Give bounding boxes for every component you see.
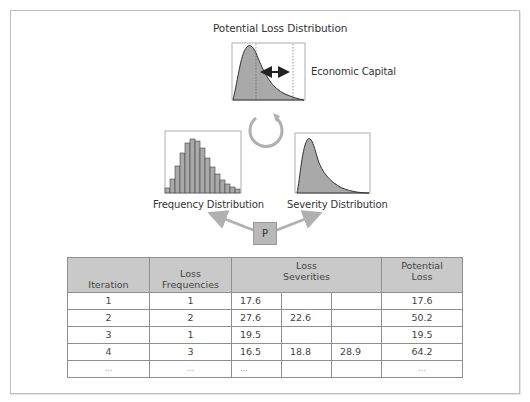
severity-distribution-label: Severity Distribution bbox=[287, 199, 388, 210]
cell-frequency: 3 bbox=[150, 344, 232, 361]
cell-severity-1: 17.6 bbox=[232, 293, 282, 310]
cycle-arrow-icon bbox=[250, 113, 282, 146]
potential-loss-title: Potential Loss Distribution bbox=[213, 22, 347, 34]
frequency-histogram bbox=[165, 131, 241, 193]
severity-chart bbox=[295, 133, 370, 193]
cell-iteration: 1 bbox=[68, 293, 150, 310]
header-potential-loss: PotentialLoss bbox=[382, 258, 463, 293]
cell-severity-2 bbox=[282, 293, 332, 310]
table-row: 2 2 27.6 22.6 50.2 bbox=[68, 310, 463, 327]
cell-severity-3 bbox=[332, 361, 382, 378]
arrow-to-severity bbox=[277, 214, 318, 230]
table-row: 3 1 19.5 19.5 bbox=[68, 327, 463, 344]
cell-frequency: ... bbox=[150, 361, 232, 378]
process-box: P bbox=[253, 222, 277, 245]
arrow-to-frequency bbox=[212, 214, 253, 230]
cell-iteration: 3 bbox=[68, 327, 150, 344]
header-iteration: Iteration bbox=[68, 258, 150, 293]
table-header-row: Iteration LossFrequencies LossSeverities… bbox=[68, 258, 463, 293]
cell-severity-2 bbox=[282, 361, 332, 378]
potential-loss-chart bbox=[232, 43, 305, 100]
table-row: ... ... ... ... bbox=[68, 361, 463, 378]
cell-severity-2: 18.8 bbox=[282, 344, 332, 361]
cell-severity-3: 28.9 bbox=[332, 344, 382, 361]
cell-iteration: ... bbox=[68, 361, 150, 378]
cell-potential-loss: 50.2 bbox=[382, 310, 463, 327]
cell-potential-loss: 19.5 bbox=[382, 327, 463, 344]
cell-severity-2 bbox=[282, 327, 332, 344]
cell-potential-loss: 64.2 bbox=[382, 344, 463, 361]
cell-iteration: 4 bbox=[68, 344, 150, 361]
cell-potential-loss: 17.6 bbox=[382, 293, 463, 310]
table-row: 1 1 17.6 17.6 bbox=[68, 293, 463, 310]
cell-severity-3 bbox=[332, 327, 382, 344]
cell-iteration: 2 bbox=[68, 310, 150, 327]
frequency-distribution-label: Frequency Distribution bbox=[153, 199, 264, 210]
cell-frequency: 1 bbox=[150, 327, 232, 344]
cell-severity-1: 27.6 bbox=[232, 310, 282, 327]
economic-capital-label: Economic Capital bbox=[311, 66, 396, 77]
table-row: 4 3 16.5 18.8 28.9 64.2 bbox=[68, 344, 463, 361]
cell-severity-1: 16.5 bbox=[232, 344, 282, 361]
header-loss-frequencies: LossFrequencies bbox=[150, 258, 232, 293]
simulation-table: Iteration LossFrequencies LossSeverities… bbox=[67, 257, 463, 378]
cell-severity-3 bbox=[332, 293, 382, 310]
cell-severity-2: 22.6 bbox=[282, 310, 332, 327]
cell-severity-3 bbox=[332, 310, 382, 327]
header-loss-severities: LossSeverities bbox=[232, 258, 382, 293]
cell-severity-1: ... bbox=[232, 361, 282, 378]
cell-frequency: 2 bbox=[150, 310, 232, 327]
cell-frequency: 1 bbox=[150, 293, 232, 310]
cell-severity-1: 19.5 bbox=[232, 327, 282, 344]
cell-potential-loss: ... bbox=[382, 361, 463, 378]
